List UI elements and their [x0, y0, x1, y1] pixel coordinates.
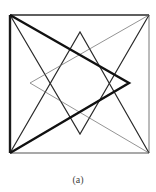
figure-caption: (a) — [0, 174, 156, 185]
thick-triangle-pointing-right — [10, 15, 129, 153]
geometric-figure: (a) — [0, 0, 156, 192]
